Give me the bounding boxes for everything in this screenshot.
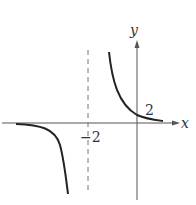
intercept-tick-label: 2 xyxy=(145,102,154,118)
function-graph: x y −2 2 xyxy=(0,0,196,205)
x-axis-arrow-icon xyxy=(172,121,180,126)
x-axis-label: x xyxy=(181,115,189,131)
y-axis-arrow-icon xyxy=(135,40,140,48)
y-axis-label: y xyxy=(129,22,139,38)
right-branch-curve xyxy=(109,52,163,121)
left-branch-curve xyxy=(16,124,68,194)
asymptote-tick-label: −2 xyxy=(80,129,101,145)
